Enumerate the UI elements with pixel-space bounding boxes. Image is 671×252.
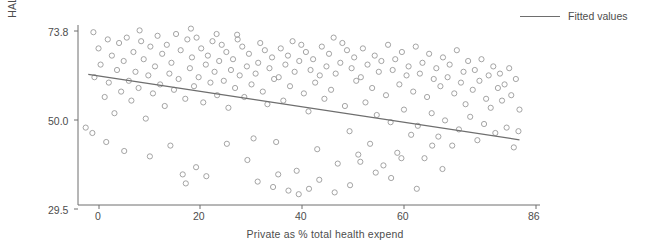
legend: Fitted values — [520, 10, 628, 22]
fitted-line — [88, 74, 519, 140]
scatter-plot — [0, 0, 671, 252]
data-points — [83, 26, 522, 197]
legend-line-swatch — [520, 16, 560, 17]
legend-label-fitted: Fitted values — [568, 10, 628, 22]
chart-container: HALE 2000 Private as % total health expe… — [0, 0, 671, 252]
